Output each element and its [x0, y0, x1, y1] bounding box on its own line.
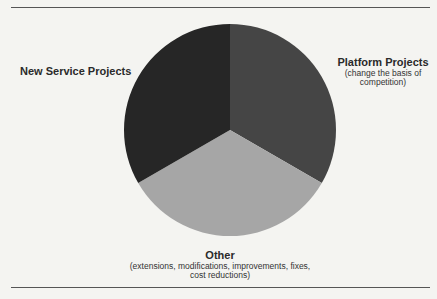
label-platform: Platform Projects (change the basis of c… — [328, 56, 437, 88]
label-other-desc-2: cost reductions) — [100, 271, 340, 281]
label-platform-desc-2: competition) — [328, 78, 437, 88]
label-platform-name: Platform Projects — [328, 56, 437, 69]
bottom-rule — [11, 287, 430, 288]
label-new-service: New Service Projects — [20, 65, 150, 78]
label-other: Other (extensions, modifications, improv… — [100, 249, 340, 281]
label-other-name: Other — [100, 249, 340, 262]
label-new-service-name: New Service Projects — [20, 65, 150, 78]
